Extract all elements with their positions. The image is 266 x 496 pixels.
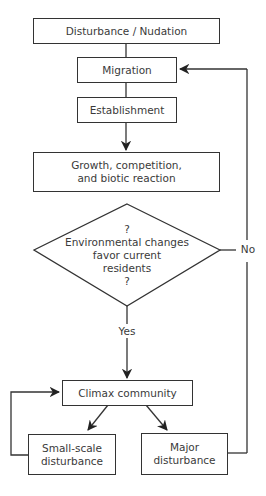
node-label-line2: disturbance xyxy=(153,454,215,467)
node-major-disturbance: Major disturbance xyxy=(141,433,228,475)
node-disturbance-nudation: Disturbance / Nudation xyxy=(33,18,220,44)
decision-line1: Environmental changes xyxy=(50,236,204,249)
decision-question-mark-top: ? xyxy=(50,223,204,236)
node-climax-community: Climax community xyxy=(62,380,193,406)
node-label-line2: and biotic reaction xyxy=(77,172,175,185)
yes-label: Yes xyxy=(115,325,139,338)
node-label: Climax community xyxy=(78,387,177,400)
decision-line3: residents xyxy=(50,262,204,275)
node-small-scale-disturbance: Small-scale disturbance xyxy=(28,434,116,475)
node-label-line2: disturbance xyxy=(41,455,103,468)
decision-line2: favor current xyxy=(50,249,204,262)
decision-question-mark-bottom: ? xyxy=(50,275,204,288)
node-label-line1: Major xyxy=(170,441,199,454)
node-migration: Migration xyxy=(77,57,177,83)
node-label-line1: Small-scale xyxy=(42,442,102,455)
node-label: Migration xyxy=(102,64,152,77)
arrow-climax-small-scale xyxy=(88,405,108,430)
node-establishment: Establishment xyxy=(77,97,177,123)
arrow-climax-major xyxy=(146,405,167,430)
node-label-line1: Growth, competition, xyxy=(71,159,182,172)
node-label: Disturbance / Nudation xyxy=(66,25,187,38)
node-growth-competition: Growth, competition, and biotic reaction xyxy=(33,152,220,192)
no-label: No xyxy=(237,243,259,256)
decision-text: ? Environmental changes favor current re… xyxy=(50,223,204,288)
node-label: Establishment xyxy=(90,104,165,117)
